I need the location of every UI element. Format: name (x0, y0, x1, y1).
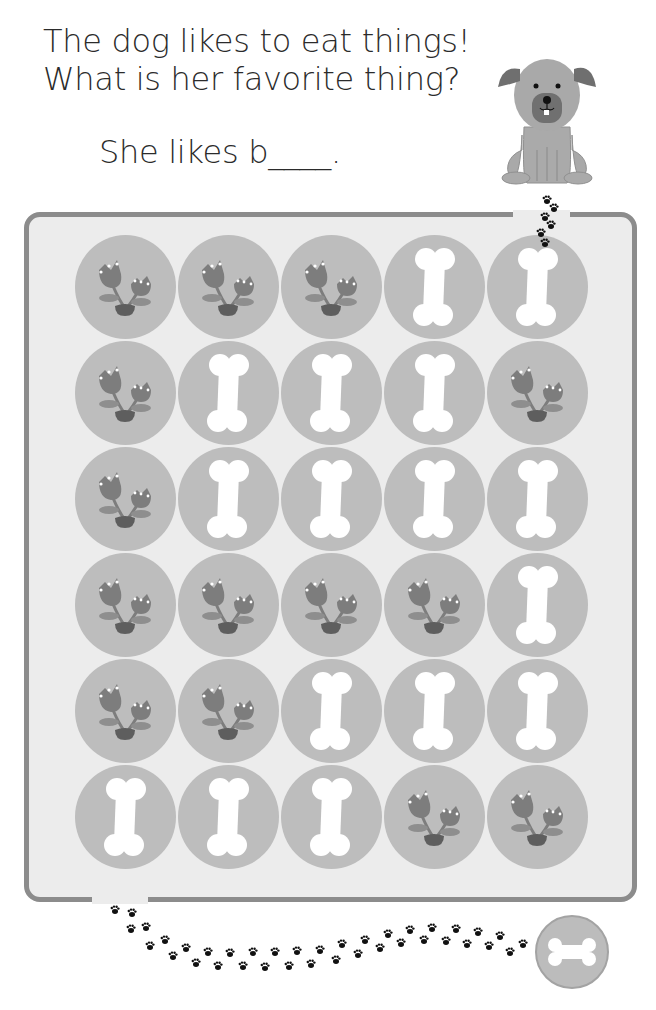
bone-icon (281, 765, 382, 869)
paw-icon (128, 908, 137, 917)
bone-icon (487, 659, 588, 763)
goal-bone-button[interactable] (535, 915, 609, 989)
paw-icon (182, 943, 191, 952)
flower-icon (178, 235, 279, 339)
maze-cell-r5-c2[interactable] (177, 658, 280, 764)
maze-cell-r2-c5[interactable] (486, 340, 589, 446)
paw-icon (285, 961, 294, 970)
bone-icon (547, 937, 597, 967)
dog-icon (492, 55, 602, 190)
flower-icon (178, 659, 279, 763)
flower-icon (281, 553, 382, 657)
paw-icon (293, 946, 302, 955)
paw-icon (543, 195, 552, 204)
bone-icon (384, 659, 485, 763)
paw-icon (463, 939, 472, 948)
paw-icon (332, 955, 341, 964)
maze-cell-r5-c1[interactable] (74, 658, 177, 764)
bone-icon (487, 447, 588, 551)
maze-cell-r1-c1[interactable] (74, 234, 177, 340)
bone-icon (384, 447, 485, 551)
paw-icon (354, 949, 363, 958)
paw-icon (146, 941, 155, 950)
flower-icon (281, 235, 382, 339)
bone-icon (384, 341, 485, 445)
flower-icon (75, 659, 176, 763)
maze-cell-r5-c3[interactable] (280, 658, 383, 764)
maze-exit (92, 896, 148, 904)
flower-icon (75, 447, 176, 551)
paw-icon (111, 905, 120, 914)
bone-icon (75, 765, 176, 869)
bone-icon (384, 235, 485, 339)
question-line-1: The dog likes to eat things! (43, 22, 470, 60)
paw-icon (452, 924, 461, 933)
maze-cell-r2-c2[interactable] (177, 340, 280, 446)
maze-cell-r6-c5[interactable] (486, 764, 589, 870)
paw-icon (496, 931, 505, 940)
paw-icon (316, 945, 325, 954)
flower-icon (178, 553, 279, 657)
flower-icon (384, 553, 485, 657)
maze-cell-r6-c4[interactable] (383, 764, 486, 870)
maze-cell-r4-c4[interactable] (383, 552, 486, 658)
paw-icon (519, 939, 528, 948)
maze-cell-r3-c3[interactable] (280, 446, 383, 552)
maze-cell-r1-c5[interactable] (486, 234, 589, 340)
maze-cell-r1-c4[interactable] (383, 234, 486, 340)
bone-icon (487, 553, 588, 657)
paw-icon (406, 925, 415, 934)
maze-cell-r3-c5[interactable] (486, 446, 589, 552)
flower-icon (487, 341, 588, 445)
paw-icon (506, 947, 515, 956)
maze-cell-r5-c5[interactable] (486, 658, 589, 764)
maze-cell-r2-c4[interactable] (383, 340, 486, 446)
paw-icon (249, 947, 258, 956)
question-line-2: What is her favorite thing? (43, 60, 470, 98)
maze-entrance (513, 210, 570, 218)
flower-icon (75, 553, 176, 657)
paw-icon (442, 936, 451, 945)
maze-cell-r4-c2[interactable] (177, 552, 280, 658)
paw-icon (307, 959, 316, 968)
bone-icon (281, 447, 382, 551)
maze-cell-r2-c3[interactable] (280, 340, 383, 446)
maze-cell-r3-c2[interactable] (177, 446, 280, 552)
maze-cell-r2-c1[interactable] (74, 340, 177, 446)
maze-cell-r1-c2[interactable] (177, 234, 280, 340)
paw-icon (261, 962, 270, 971)
paw-icon (376, 943, 385, 952)
maze-cell-r1-c3[interactable] (280, 234, 383, 340)
paw-icon (226, 948, 235, 957)
maze-cell-r6-c2[interactable] (177, 764, 280, 870)
paw-icon (161, 935, 170, 944)
paw-icon (420, 935, 429, 944)
maze-cell-r3-c4[interactable] (383, 446, 486, 552)
paw-icon (127, 924, 136, 933)
flower-icon (75, 235, 176, 339)
answer-prompt[interactable]: She likes b____. (99, 133, 341, 171)
bone-icon (178, 341, 279, 445)
flower-icon (384, 765, 485, 869)
maze-grid (74, 234, 589, 870)
paw-icon (271, 947, 280, 956)
paw-icon (338, 939, 347, 948)
paw-icon (239, 961, 248, 970)
flower-icon (487, 765, 588, 869)
bone-icon (281, 659, 382, 763)
bone-icon (178, 765, 279, 869)
paw-icon (474, 927, 483, 936)
paw-icon (485, 941, 494, 950)
maze-cell-r4-c1[interactable] (74, 552, 177, 658)
paw-icon (361, 935, 370, 944)
flower-icon (75, 341, 176, 445)
maze-cell-r6-c3[interactable] (280, 764, 383, 870)
maze-cell-r3-c1[interactable] (74, 446, 177, 552)
maze-cell-r4-c3[interactable] (280, 552, 383, 658)
paw-icon (384, 929, 393, 938)
paw-icon (142, 922, 151, 931)
paw-icon (169, 951, 178, 960)
maze-cell-r4-c5[interactable] (486, 552, 589, 658)
maze-cell-r5-c4[interactable] (383, 658, 486, 764)
maze-cell-r6-c1[interactable] (74, 764, 177, 870)
